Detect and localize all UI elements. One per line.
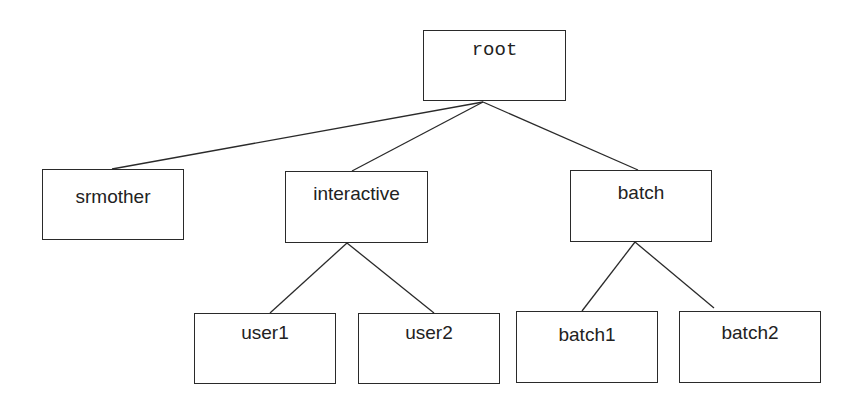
node-label-batch2: batch2 <box>680 322 820 344</box>
edge-batch-to-batch1 <box>582 242 635 311</box>
edge-root-to-interactive <box>352 102 483 171</box>
node-label-user2: user2 <box>359 322 499 344</box>
node-user1: user1 <box>194 313 336 384</box>
edge-batch-to-batch2 <box>635 242 714 308</box>
node-label-interactive: interactive <box>286 183 427 205</box>
node-batch2: batch2 <box>679 311 821 383</box>
node-root: root <box>423 30 566 101</box>
node-batch1: batch1 <box>516 311 658 383</box>
node-label-batch1: batch1 <box>517 324 657 346</box>
node-batch: batch <box>570 170 712 242</box>
edge-interactive-to-user1 <box>270 243 347 313</box>
edge-root-to-batch <box>483 102 638 170</box>
edge-interactive-to-user2 <box>347 243 434 313</box>
node-interactive: interactive <box>285 171 428 243</box>
node-label-root: root <box>424 39 565 61</box>
node-label-srmother: srmother <box>43 186 183 208</box>
node-user2: user2 <box>358 313 500 384</box>
node-label-batch: batch <box>571 182 711 204</box>
tree-diagram: root srmother interactive batch user1 us… <box>0 0 860 406</box>
edge-root-to-srmother <box>112 102 483 169</box>
node-label-user1: user1 <box>195 322 335 344</box>
node-srmother: srmother <box>42 169 184 240</box>
